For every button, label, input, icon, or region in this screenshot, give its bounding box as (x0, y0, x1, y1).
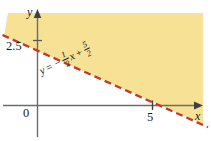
y-axis-label: y (27, 6, 32, 18)
y-intercept-label: 2.5 (6, 40, 22, 53)
origin-label: 0 (23, 107, 29, 120)
graph-figure: 2.5 0 5 y x y = − 1 2 x + 5 2 (0, 0, 211, 141)
x-axis-label: x (195, 110, 200, 122)
graph-canvas (0, 0, 211, 141)
shaded-region (4, 13, 203, 124)
x-intercept-label: 5 (147, 111, 153, 124)
